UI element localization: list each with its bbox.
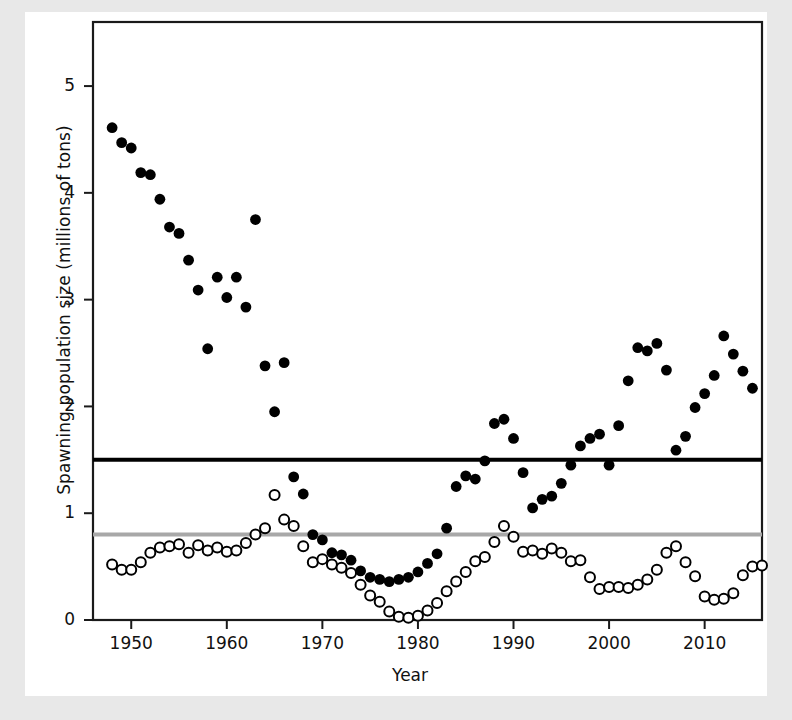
- filled-circle-marker: [604, 460, 615, 471]
- open-circle-marker: [681, 557, 691, 567]
- filled-circle-marker: [393, 574, 404, 585]
- x-tick-label: 1980: [388, 633, 448, 653]
- open-circle-marker: [193, 540, 203, 550]
- open-circle-marker: [747, 562, 757, 572]
- open-circle-marker: [270, 490, 280, 500]
- open-circle-marker: [461, 567, 471, 577]
- open-circle-marker: [575, 555, 585, 565]
- open-circle-marker: [423, 605, 433, 615]
- filled-circle-marker: [737, 366, 748, 377]
- filled-circle-marker: [556, 478, 567, 489]
- plot-border: [93, 22, 762, 620]
- filled-circle-marker: [537, 494, 548, 505]
- filled-circle-marker: [747, 383, 758, 394]
- filled-circle-marker: [613, 420, 624, 431]
- scatter-chart: [0, 0, 792, 720]
- x-tick-label: 1950: [101, 633, 161, 653]
- x-tick-label: 1960: [197, 633, 257, 653]
- figure-page: Spawning population size (millions of to…: [0, 0, 792, 720]
- filled-circle-marker: [565, 460, 576, 471]
- open-circle-marker: [289, 521, 299, 531]
- filled-circle-marker: [479, 455, 490, 466]
- filled-circle-marker: [202, 343, 213, 354]
- open-circle-marker: [394, 612, 404, 622]
- open-circle-marker: [432, 598, 442, 608]
- filled-circle-marker: [384, 576, 395, 587]
- filled-circle-marker: [126, 143, 137, 154]
- filled-circle-marker: [546, 491, 557, 502]
- reference-lines: [93, 460, 762, 535]
- open-circle-marker: [499, 521, 509, 531]
- open-circle-marker: [528, 546, 538, 556]
- filled-circle-marker: [642, 346, 653, 357]
- filled-circle-marker: [518, 467, 529, 478]
- open-circle-marker: [700, 592, 710, 602]
- filled-circle-marker: [508, 433, 519, 444]
- y-tick-label: 5: [51, 75, 75, 95]
- filled-circle-marker: [135, 167, 146, 178]
- open-circle-marker: [556, 548, 566, 558]
- open-circle-marker: [375, 597, 385, 607]
- open-circle-marker: [728, 588, 738, 598]
- y-tick-label: 0: [51, 609, 75, 629]
- filled-circle-marker: [709, 370, 720, 381]
- y-tick-label: 3: [51, 289, 75, 309]
- open-circle-marker: [212, 542, 222, 552]
- open-circle-marker: [671, 541, 681, 551]
- open-circle-marker: [413, 611, 423, 621]
- open-circle-marker: [623, 583, 633, 593]
- open-circle-marker: [537, 549, 547, 559]
- y-axis-label: Spawning population size (millions of to…: [54, 120, 74, 500]
- open-circle-marker: [222, 547, 232, 557]
- filled-circle-marker: [107, 122, 118, 133]
- open-circle-marker: [317, 554, 327, 564]
- open-circle-marker: [384, 606, 394, 616]
- filled-circle-marker: [699, 388, 710, 399]
- filled-circle-marker: [260, 360, 271, 371]
- filled-circle-marker: [632, 342, 643, 353]
- filled-circle-marker: [327, 547, 338, 558]
- filled-circle-marker: [241, 302, 252, 313]
- open-circle-marker: [117, 565, 127, 575]
- filled-circle-marker: [374, 574, 385, 585]
- filled-circle-marker: [432, 548, 443, 559]
- open-circle-marker: [633, 580, 643, 590]
- x-tick-label: 1970: [292, 633, 352, 653]
- open-circle-marker: [604, 582, 614, 592]
- filled-circle-marker: [718, 331, 729, 342]
- open-circle-marker: [403, 613, 413, 623]
- filled-circle-marker: [623, 375, 634, 386]
- filled-circle-marker: [155, 194, 166, 205]
- open-circle-marker: [260, 523, 270, 533]
- filled-circle-marker: [164, 222, 175, 233]
- filled-circle-series: [107, 122, 758, 587]
- filled-circle-marker: [279, 357, 290, 368]
- filled-circle-marker: [441, 523, 452, 534]
- open-circle-marker: [145, 548, 155, 558]
- open-circle-marker: [489, 537, 499, 547]
- x-tick-label: 1990: [484, 633, 544, 653]
- filled-circle-marker: [671, 445, 682, 456]
- plot-frame: [93, 22, 762, 620]
- open-circle-marker: [509, 532, 519, 542]
- open-circle-marker: [652, 565, 662, 575]
- open-circle-marker: [241, 538, 251, 548]
- filled-circle-marker: [451, 481, 462, 492]
- filled-circle-marker: [585, 433, 596, 444]
- open-circle-marker: [174, 539, 184, 549]
- open-circle-marker: [757, 561, 767, 571]
- filled-circle-marker: [298, 489, 309, 500]
- open-circle-marker: [184, 548, 194, 558]
- x-tick-label: 2010: [675, 633, 735, 653]
- open-circle-marker: [470, 556, 480, 566]
- open-circle-marker: [709, 595, 719, 605]
- open-circle-marker: [442, 586, 452, 596]
- open-circle-marker: [614, 582, 624, 592]
- filled-circle-marker: [422, 558, 433, 569]
- filled-circle-marker: [594, 429, 605, 440]
- x-tick-label: 2000: [579, 633, 639, 653]
- filled-circle-marker: [250, 214, 261, 225]
- filled-circle-marker: [269, 406, 280, 417]
- filled-circle-marker: [413, 567, 424, 578]
- filled-circle-marker: [527, 502, 538, 513]
